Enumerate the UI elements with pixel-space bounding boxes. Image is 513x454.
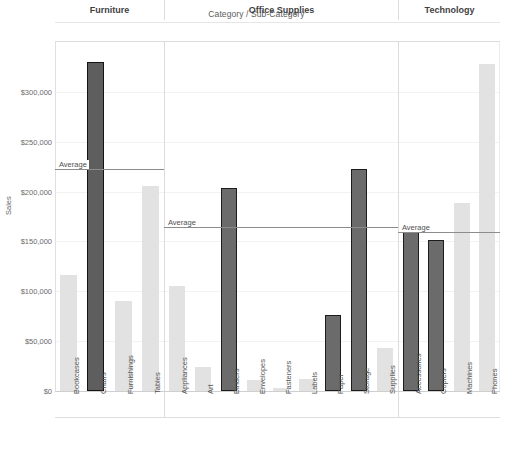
x-axis-label-labels: Labels — [310, 372, 319, 394]
panel-header-technology: Technology — [398, 0, 500, 20]
bar-binders[interactable] — [221, 188, 237, 391]
panel-header-band — [55, 22, 500, 42]
x-axis-label-art: Art — [206, 384, 215, 394]
x-axis-label-accessories: Accessories — [414, 354, 423, 394]
average-line-label: Average — [57, 160, 89, 169]
y-axis-tick: $0 — [0, 387, 52, 396]
x-axis-label-supplies: Supplies — [388, 365, 397, 394]
x-axis-label-furnishings: Furnishings — [126, 355, 135, 394]
x-axis-label-envelopes: Envelopes — [258, 359, 267, 394]
average-line-label: Average — [166, 218, 198, 227]
y-axis-tick: $250,000 — [0, 137, 52, 146]
average-reference-line[interactable] — [55, 169, 164, 170]
y-axis-ticks: $0$50,000$100,000$150,000$200,000$250,00… — [0, 0, 52, 454]
average-reference-line[interactable] — [398, 232, 500, 233]
bar-chairs[interactable] — [87, 62, 104, 391]
x-axis-label-phones: Phones — [490, 369, 499, 394]
x-axis-label-tables: Tables — [153, 372, 162, 394]
panel-header-furniture: Furniture — [55, 0, 164, 20]
average-reference-line[interactable] — [164, 227, 398, 228]
y-axis-tick: $150,000 — [0, 237, 52, 246]
y-axis-tick: $200,000 — [0, 187, 52, 196]
y-axis-tick: $300,000 — [0, 87, 52, 96]
y-axis-tick: $50,000 — [0, 337, 52, 346]
x-axis-band — [55, 391, 500, 417]
bar-chart: Category / Sub-Category Sales $0$50,000$… — [0, 0, 513, 454]
average-line-label: Average — [400, 223, 432, 232]
x-axis-label-copiers: Copiers — [439, 368, 448, 394]
panel-header-office-supplies: Office Supplies — [164, 0, 398, 20]
bar-tables[interactable] — [142, 186, 159, 391]
panel-divider — [398, 42, 399, 417]
y-axis-tick: $100,000 — [0, 287, 52, 296]
x-axis-label-binders: Binders — [232, 369, 241, 394]
x-axis-label-machines: Machines — [465, 362, 474, 394]
bar-storage[interactable] — [351, 169, 367, 391]
x-axis-label-bookcases: Bookcases — [72, 357, 81, 394]
x-axis-label-paper: Paper — [336, 374, 345, 394]
x-axis-label-storage: Storage — [362, 368, 371, 394]
panel-divider — [164, 42, 165, 417]
x-axis-label-fasteners: Fasteners — [284, 361, 293, 394]
x-axis-label-chairs: Chairs — [99, 372, 108, 394]
bar-phones[interactable] — [479, 64, 495, 391]
x-axis-label-appliances: Appliances — [180, 357, 189, 394]
bottom-rule — [55, 417, 500, 418]
